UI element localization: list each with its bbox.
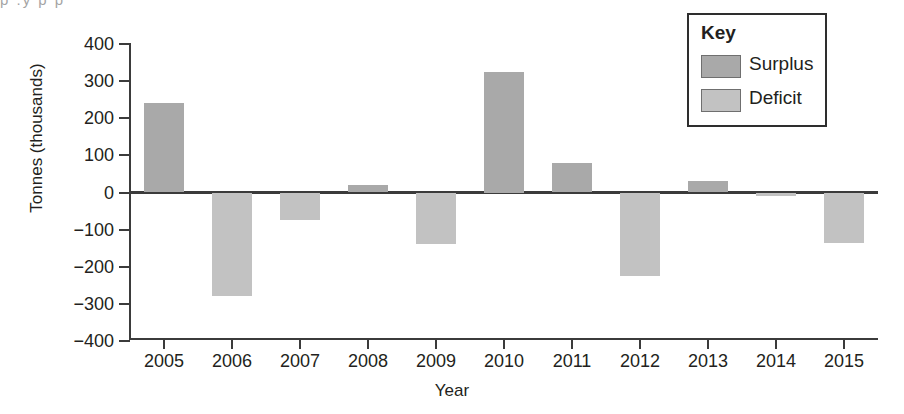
y-tick-label--200: −200	[44, 258, 114, 276]
x-tick-2010	[503, 340, 505, 349]
bar-2014	[756, 193, 796, 197]
bar-2010	[484, 72, 524, 193]
legend-title: Key	[701, 22, 736, 44]
bar-2007	[280, 193, 320, 221]
y-tick-label--100: −100	[44, 221, 114, 239]
legend-key-box: Key Surplus Deficit	[687, 13, 827, 127]
legend-swatch-deficit-icon	[701, 89, 741, 112]
bar-2015	[824, 193, 864, 243]
x-tick-2014	[775, 340, 777, 349]
x-tick-label-2015: 2015	[804, 352, 884, 370]
legend-label-deficit: Deficit	[749, 87, 802, 109]
y-tick-label-0: 0	[44, 184, 114, 202]
y-tick-label-400: 400	[44, 35, 114, 53]
bar-2008	[348, 185, 388, 192]
y-tick-200	[119, 117, 130, 119]
x-tick-2015	[843, 340, 845, 349]
y-tick--100	[119, 229, 130, 231]
legend-swatch-surplus-icon	[701, 55, 741, 78]
y-tick-100	[119, 154, 130, 156]
y-tick-label-300: 300	[44, 72, 114, 90]
bar-2012	[620, 193, 660, 277]
bar-2013	[688, 181, 728, 192]
y-tick-400	[119, 43, 130, 45]
bar-2005	[144, 103, 184, 192]
legend-label-surplus: Surplus	[749, 53, 813, 75]
x-tick-2006	[231, 340, 233, 349]
x-tick-2013	[707, 340, 709, 349]
x-tick-2009	[435, 340, 437, 349]
y-tick-label--400: −400	[44, 332, 114, 350]
y-tick-label--300: −300	[44, 295, 114, 313]
y-tick-label-100: 100	[44, 146, 114, 164]
x-tick-2012	[639, 340, 641, 349]
bar-chart: Tonnes (thousands) Year 4003002001000−10…	[0, 0, 904, 414]
bar-2011	[552, 163, 592, 193]
y-tick-300	[119, 80, 130, 82]
y-tick-label-200: 200	[44, 109, 114, 127]
x-tick-2011	[571, 340, 573, 349]
y-axis-tick-labels: 4003002001000−100−200−300−400	[38, 0, 114, 414]
bar-2009	[416, 193, 456, 245]
x-axis-title: Year	[0, 381, 904, 401]
y-tick--400	[119, 340, 130, 342]
bar-2006	[212, 193, 252, 297]
y-tick--300	[119, 303, 130, 305]
x-tick-2005	[163, 340, 165, 349]
x-tick-2008	[367, 340, 369, 349]
y-tick--200	[119, 266, 130, 268]
y-tick-0	[119, 192, 130, 194]
x-tick-2007	[299, 340, 301, 349]
